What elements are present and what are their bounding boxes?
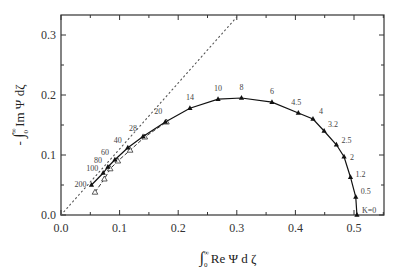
y-tick-label: 0.3 [41,28,56,42]
point-label: 60 [101,148,109,157]
point-label: 2 [350,153,354,162]
point-label: 3.2 [328,120,338,129]
open-triangle-marker [102,176,108,181]
point-label: 6 [270,87,274,96]
y-tick-label: 0.1 [41,148,56,162]
x-tick-label: 0.3 [229,221,244,235]
filled-triangle-marker [353,194,358,199]
point-label: 14 [186,93,194,102]
point-label: 4 [319,107,323,116]
y-tick-label: 0.2 [41,88,56,102]
plot-axes [61,15,384,215]
point-label: K=0 [362,206,376,215]
nyquist-plot: 0.00.10.20.30.40.50.00.10.20.3 K=00.51.2… [0,0,398,278]
plot-frame [61,15,384,215]
filled-triangle-marker [239,95,244,100]
point-label: 2.5 [341,136,351,145]
y-axis-title: - ∫∞0 Im Ψ dζ [10,84,30,146]
x-tick-label: 0.2 [171,221,186,235]
point-label: 1.2 [355,170,365,179]
point-label: 10 [214,84,222,93]
filled-triangle-marker [125,145,130,150]
point-label: 0.5 [361,187,371,196]
filled-triangle-marker [354,212,359,217]
solid-curve [91,98,356,215]
point-label: 28 [129,124,137,133]
point-label: 4.5 [291,98,301,107]
data-series [61,17,360,217]
axis-titles: ∫∞0 Re Ψ d ζ - ∫∞0 Im Ψ dζ [10,84,257,269]
x-tick-label: 0.1 [112,221,127,235]
reference-line [61,17,237,215]
x-axis-title: ∫∞0 Re Ψ d ζ [199,249,257,269]
point-label: 200 [74,180,86,189]
point-label: 20 [154,107,162,116]
y-tick-label: 0.0 [41,208,56,222]
x-tick-label: 0.5 [347,221,362,235]
x-tick-label: 0.0 [54,221,69,235]
x-tick-label: 0.4 [288,221,303,235]
filled-triangle-marker [348,174,353,179]
point-label: 100 [86,164,98,173]
point-label: 8 [239,83,243,92]
point-label: 40 [114,136,122,145]
